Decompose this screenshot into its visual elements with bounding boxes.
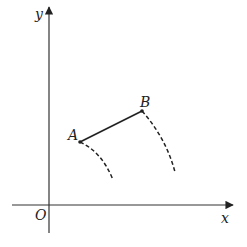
dashed-arc-b	[142, 111, 175, 172]
segment-ab	[80, 111, 142, 142]
point-a-label: A	[68, 128, 78, 142]
origin-label: O	[35, 208, 46, 222]
point-a	[78, 140, 82, 144]
point-b-label: B	[140, 95, 150, 109]
x-axis-label: x	[221, 211, 229, 225]
y-axis-label: y	[35, 7, 43, 21]
diagram-canvas: y x O A B	[0, 0, 247, 247]
dashed-arc-a	[80, 142, 113, 180]
